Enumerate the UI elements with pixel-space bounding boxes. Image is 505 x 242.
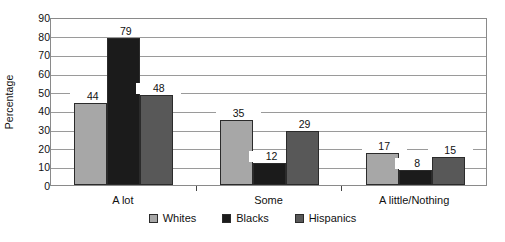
y-tick-label: 50	[8, 88, 50, 98]
legend-label: Blacks	[236, 212, 268, 225]
y-tick-label: 70	[8, 50, 50, 60]
y-tick-label: 90	[8, 13, 50, 23]
x-category-label: Some	[189, 193, 349, 207]
y-tick-label: 20	[8, 144, 50, 154]
bar	[74, 103, 107, 185]
legend-swatch-icon	[222, 214, 231, 223]
bar	[140, 95, 173, 185]
y-tick-label: 80	[8, 32, 50, 42]
bar-value-label: 79	[103, 26, 148, 37]
plot-area: 44794835122917815	[50, 18, 487, 186]
legend-swatch-icon	[149, 214, 158, 223]
bar	[107, 38, 140, 185]
x-tick-mark	[341, 186, 342, 191]
x-category-label: A lot	[43, 193, 203, 207]
legend-label: Hispanics	[309, 212, 357, 225]
bar	[399, 170, 432, 185]
x-tick-mark	[196, 186, 197, 191]
y-tick-label: 40	[8, 106, 50, 116]
bar-value-label: 35	[216, 108, 261, 119]
y-tick-label: 10	[8, 162, 50, 172]
legend: WhitesBlacksHispanics	[0, 212, 505, 225]
y-tick-label: 0	[8, 181, 50, 191]
legend-item[interactable]: Whites	[149, 212, 197, 225]
bar	[432, 157, 465, 185]
bar-value-label: 17	[362, 141, 407, 152]
x-category-label: A little/Nothing	[334, 193, 494, 207]
bar-value-label: 15	[428, 145, 473, 156]
legend-item[interactable]: Blacks	[222, 212, 268, 225]
bar-value-label: 48	[136, 83, 181, 94]
bar-value-label: 29	[282, 119, 327, 130]
bar-chart: Percentage 0102030405060708090 447948351…	[0, 0, 505, 242]
bar	[253, 163, 286, 185]
legend-swatch-icon	[295, 214, 304, 223]
bar	[286, 131, 319, 185]
legend-label: Whites	[163, 212, 197, 225]
y-axis-ticks: 0102030405060708090	[0, 18, 50, 186]
legend-item[interactable]: Hispanics	[295, 212, 357, 225]
y-tick-label: 30	[8, 125, 50, 135]
y-tick-label: 60	[8, 69, 50, 79]
